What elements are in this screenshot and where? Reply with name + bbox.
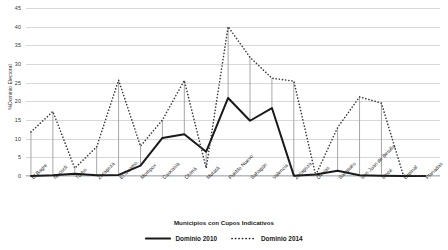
series-layer	[26, 8, 440, 176]
y-tick-label-40: 40	[15, 24, 21, 30]
series-line-dominio-2010	[31, 98, 425, 176]
legend-label-0: Dominio 2010	[175, 235, 217, 242]
legend-swatch-dotted	[231, 235, 257, 242]
y-tick-label-25: 25	[15, 80, 21, 86]
legend-item-0[interactable]: Dominio 2010	[145, 235, 217, 242]
y-tick-label-35: 35	[15, 42, 21, 48]
legend-item-1[interactable]: Dominio 2014	[231, 235, 303, 242]
legend-label-1: Dominio 2014	[261, 235, 303, 242]
y-tick-label-0: 0	[18, 173, 21, 179]
y-axis-tick-labels: 051015202530354045	[0, 8, 24, 176]
y-tick-label-15: 15	[15, 117, 21, 123]
chart-root: %Dominio Electoral 051015202530354045 El…	[0, 0, 448, 250]
chart-legend: Dominio 2010Dominio 2014	[0, 235, 448, 242]
y-tick-label-5: 5	[18, 154, 21, 160]
y-tick-label-10: 10	[15, 136, 21, 142]
legend-swatch-solid	[145, 235, 171, 242]
x-axis-title: Municipios con Cupos Indicativos	[0, 219, 448, 226]
y-tick-label-20: 20	[15, 98, 21, 104]
plot-area	[26, 8, 440, 176]
y-tick-label-45: 45	[15, 5, 21, 11]
y-tick-label-30: 30	[15, 61, 21, 67]
